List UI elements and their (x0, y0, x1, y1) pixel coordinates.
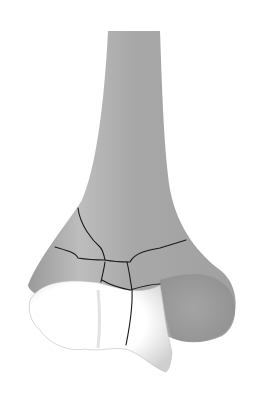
intercondylar-groove (98, 290, 100, 348)
bone-illustration (0, 0, 275, 399)
condyle-shadow (160, 274, 235, 342)
